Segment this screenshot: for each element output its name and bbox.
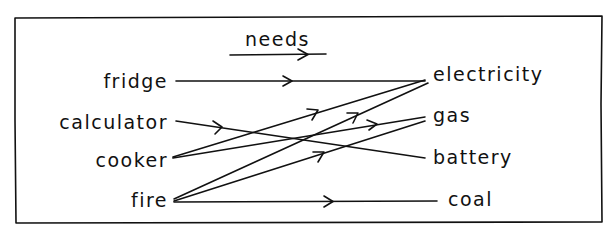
target-electricity: electricity — [433, 65, 544, 84]
target-gas: gas — [433, 106, 471, 125]
legend-label: needs — [245, 30, 310, 49]
edge-fire-electricity — [174, 83, 428, 199]
target-battery: battery — [433, 148, 513, 167]
edge-fire-coal — [174, 196, 437, 207]
source-fridge: fridge — [103, 72, 168, 91]
source-calculator: calculator — [59, 113, 168, 132]
edge-fire-gas — [174, 121, 425, 201]
edge-fridge-electricity — [176, 76, 425, 86]
needs-diagram: needs fridge calculator cooker fire elec… — [0, 0, 614, 236]
edge-calculator-battery — [176, 121, 425, 158]
source-cooker: cooker — [95, 151, 168, 170]
target-coal: coal — [448, 190, 493, 209]
edge-cooker-electricity — [173, 80, 425, 157]
legend-arrow — [230, 49, 326, 60]
source-fire: fire — [131, 191, 168, 210]
